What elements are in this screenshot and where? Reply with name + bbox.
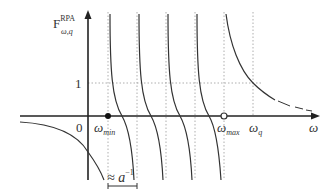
omega-max-marker: [221, 113, 227, 119]
omega-q-sub: q: [258, 128, 262, 137]
x-axis-arrow-icon: [311, 113, 320, 120]
omega-max-sub: max: [226, 128, 239, 137]
y-axis-arrow-icon: [85, 10, 92, 19]
branch-2: [139, 14, 163, 180]
tail-dashed: [278, 101, 312, 111]
y-axis-label-sub: ω,q: [61, 28, 73, 36]
omega-min-marker: [105, 113, 111, 119]
x-axis-label: ω: [309, 121, 318, 134]
omega-min-main: ω: [94, 120, 103, 135]
spacing-approx: ≈ a: [107, 170, 125, 185]
y-label-sup: RPA: [60, 14, 75, 23]
omega-q-label: ωq: [249, 121, 262, 137]
omega-min-sub: min: [103, 128, 115, 137]
rpa-plot: FRPA ω,q 1 0 ωmin ωmax ωq ω ≈ a−1: [0, 0, 333, 195]
branch-1: [110, 14, 134, 180]
branch-3: [168, 14, 192, 180]
omega-max-label: ωmax: [217, 121, 240, 137]
negative-branch: [20, 122, 104, 180]
y-tick-one: 1: [75, 77, 82, 90]
omega-min-label: ωmin: [94, 121, 115, 137]
omega-q-main: ω: [249, 120, 258, 135]
spacing-sup: −1: [125, 168, 134, 177]
guide-lines: [88, 12, 262, 180]
branch-4: [197, 14, 221, 180]
omega-max-main: ω: [217, 120, 226, 135]
origin-label: 0: [76, 121, 83, 134]
spacing-annotation: ≈ a−1: [107, 169, 134, 185]
tail-branch: [226, 14, 275, 100]
plot-canvas: [0, 0, 333, 195]
